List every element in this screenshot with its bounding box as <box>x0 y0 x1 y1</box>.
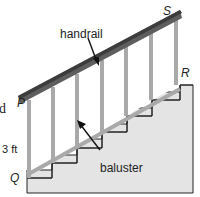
point-p-label: P <box>17 96 25 110</box>
point-s-label: S <box>163 4 171 18</box>
baluster <box>124 47 128 116</box>
baluster <box>51 87 55 163</box>
handrail-label: handrail <box>60 27 103 41</box>
baluster-label: baluster <box>100 161 143 175</box>
baluster <box>75 74 79 148</box>
height-label: 3 ft <box>2 143 17 155</box>
point-q-label: Q <box>10 171 19 185</box>
staircase-diagram: handrail baluster 3 ft S R P Q d <box>0 0 200 197</box>
baluster <box>174 20 178 85</box>
baluster <box>27 100 31 178</box>
point-r-label: R <box>181 66 190 80</box>
diagram-canvas: handrail baluster 3 ft S R P Q d <box>0 0 200 197</box>
cut-text: d <box>0 101 6 116</box>
baluster <box>149 33 153 100</box>
baluster <box>100 60 104 132</box>
